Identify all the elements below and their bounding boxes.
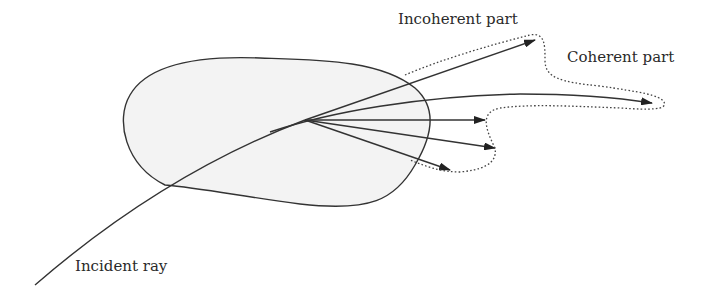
incident-ray-label: Incident ray bbox=[75, 257, 167, 275]
coherent-part-label: Coherent part bbox=[567, 48, 674, 66]
incoherent-part-label: Incoherent part bbox=[398, 10, 518, 28]
